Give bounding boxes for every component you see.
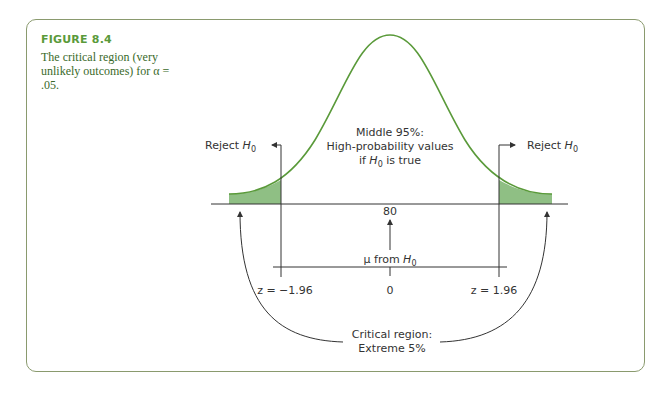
middle-label-line3: if H0 is true — [359, 154, 421, 169]
critical-label-line2: Extreme 5% — [358, 342, 425, 355]
reject-right-label: Reject H0 — [527, 139, 578, 154]
critical-left-arrow — [240, 212, 343, 342]
reject-left-label: Reject H0 — [205, 139, 256, 154]
z-right-label: z = 1.96 — [471, 284, 517, 297]
bell-curve — [229, 35, 552, 194]
normal-distribution-diagram: Reject H0 Reject H0 Middle 95%: High-pro… — [0, 0, 671, 393]
middle-label-line1: Middle 95%: — [356, 126, 424, 139]
mu-label: μ from H0 — [364, 253, 417, 268]
right-tail-region — [499, 180, 552, 204]
z-zero-label: 0 — [387, 284, 394, 297]
z-left-label: z = −1.96 — [257, 284, 313, 297]
mean-value: 80 — [383, 205, 397, 218]
middle-label-line2: High-probability values — [326, 140, 453, 153]
critical-label-line1: Critical region: — [352, 328, 432, 341]
critical-right-arrow — [440, 212, 547, 342]
